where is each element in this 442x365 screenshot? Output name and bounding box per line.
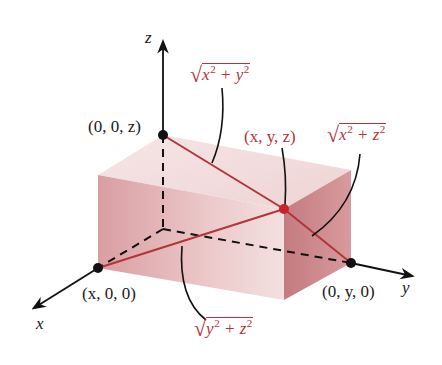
label-x-axis-point: (x, 0, 0) xyxy=(82,284,136,304)
x-axis-label: x xyxy=(36,314,44,334)
z-axis-label: z xyxy=(145,28,152,48)
distance-label-y-axis: √x2 + z2 xyxy=(327,122,386,148)
coordinate-diagram xyxy=(0,0,442,365)
point-y-axis xyxy=(346,258,356,268)
label-y-axis-point: (0, y, 0) xyxy=(322,282,375,302)
point-corner xyxy=(279,204,289,214)
label-corner-point: (x, y, z) xyxy=(244,127,296,147)
distance-label-z-axis: √x2 + y2 xyxy=(190,62,250,88)
label-z-axis-point: (0, 0, z) xyxy=(88,117,141,137)
point-x-axis xyxy=(93,263,103,273)
y-axis xyxy=(351,263,412,276)
y-axis-label: y xyxy=(402,278,410,298)
point-z-axis xyxy=(158,130,168,140)
distance-label-x-axis: √y2 + z2 xyxy=(194,316,253,342)
